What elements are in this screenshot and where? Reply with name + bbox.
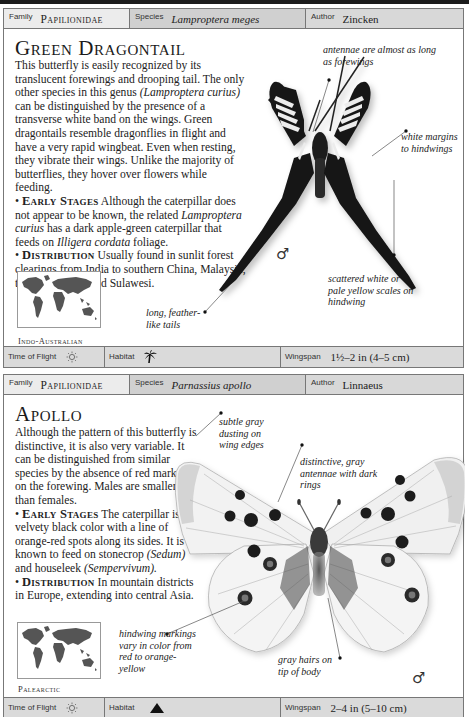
habitat-label: Habitat — [109, 703, 134, 712]
annotation-margins: white margins to hindwings — [401, 131, 461, 154]
species-entry-green-dragontail: Family Papilionidae Species Lamproptera … — [3, 8, 464, 368]
habitat-cell: Habitat — [105, 698, 281, 717]
wingspan-label: Wingspan — [285, 352, 321, 361]
annotation-dusting: subtle gray dusting on wing edges — [219, 416, 279, 451]
wingspan-value: 2–4 in (5–10 cm) — [331, 702, 407, 714]
male-symbol-icon: ♂ — [412, 669, 425, 687]
annotation-hairs: gray hairs on tip of body — [278, 654, 342, 677]
time-of-flight-cell: Time of Flight — [4, 698, 105, 717]
annotation-antennae: distinctive, gray antennae with dark rin… — [300, 456, 378, 491]
habitat-label: Habitat — [109, 352, 134, 361]
male-symbol-icon: ♂ — [276, 245, 289, 263]
annotation-scales: scattered white or pale yellow scales on… — [328, 273, 418, 308]
species-entry-apollo: Family Papilionidae Species Parnassius a… — [3, 374, 464, 717]
entry-footer: Time of Flight Habitat Wingspan 1½–2 in … — [4, 346, 463, 368]
annotation-hindwing: hindwing markings vary in color from red… — [119, 628, 201, 674]
wingspan-cell: Wingspan 1½–2 in (4–5 cm) — [281, 347, 463, 367]
annotation-tails: long, feather-like tails — [146, 307, 208, 330]
time-of-flight-label: Time of Flight — [8, 703, 56, 712]
sun-icon — [66, 702, 78, 714]
annotation-antennae: antennae are almost as long as forewings — [323, 44, 441, 67]
mountain-icon — [150, 703, 164, 713]
time-of-flight-cell: Time of Flight — [4, 347, 105, 367]
wingspan-value: 1½–2 in (4–5 cm) — [331, 351, 410, 363]
entry-footer: Time of Flight Habitat Wingspan 2–4 in (… — [4, 697, 463, 717]
wingspan-label: Wingspan — [285, 703, 321, 712]
sun-icon — [66, 351, 78, 363]
top-rule — [0, 0, 469, 4]
wingspan-cell: Wingspan 2–4 in (5–10 cm) — [281, 698, 463, 717]
palm-tree-icon — [144, 350, 157, 364]
time-of-flight-label: Time of Flight — [8, 352, 56, 361]
habitat-cell: Habitat — [105, 347, 281, 367]
